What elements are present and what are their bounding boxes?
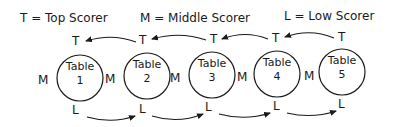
table-5: T Table 5 M L: [304, 30, 365, 111]
table-1-number: 1: [77, 74, 84, 87]
arrow-top-2-to-1: [86, 37, 136, 42]
tournament-rotation-diagram: T = Top Scorer M = Middle Scorer L = Low…: [0, 0, 397, 127]
table-5-middle-scorer: M: [304, 69, 314, 83]
table-4-low-scorer: L: [273, 99, 280, 113]
arrow-low-3-to-4: [219, 113, 270, 117]
table-1-top-scorer: T: [71, 34, 80, 48]
table-2-number: 2: [144, 72, 151, 85]
table-2-low-scorer: L: [139, 102, 146, 116]
table-5-number: 5: [339, 68, 346, 81]
table-1-middle-scorer: M: [38, 73, 48, 87]
table-1: T Table 1 M L: [38, 34, 103, 117]
table-2-top-scorer: T: [138, 33, 147, 47]
table-5-top-scorer: T: [337, 30, 346, 44]
legend-middle-scorer: M = Middle Scorer: [140, 11, 250, 25]
arrow-top-5-to-4: [285, 33, 334, 38]
legend-top-scorer: T = Top Scorer: [19, 11, 108, 25]
arrow-low-1-to-2: [87, 116, 135, 120]
table-5-label: Table: [327, 54, 357, 67]
table-3-low-scorer: L: [205, 100, 212, 114]
table-1-low-scorer: L: [72, 103, 79, 117]
arrow-top-4-to-3: [222, 35, 268, 40]
legend: T = Top Scorer M = Middle Scorer L = Low…: [19, 9, 374, 25]
table-3-number: 3: [209, 71, 216, 84]
arrow-low-2-to-3: [152, 114, 203, 120]
table-5-low-scorer: L: [338, 97, 345, 111]
table-4-number: 4: [274, 70, 281, 83]
table-2-middle-scorer: M: [105, 72, 115, 86]
table-2: T Table 2 M L: [105, 33, 170, 116]
arrow-low-4-to-5: [287, 111, 336, 116]
table-1-label: Table: [65, 60, 95, 73]
table-4-top-scorer: T: [271, 31, 280, 45]
table-4: T Table 4 M L: [237, 31, 300, 113]
table-4-label: Table: [262, 56, 292, 69]
arrow-top-3-to-2: [152, 35, 206, 40]
table-3-label: Table: [197, 57, 227, 70]
table-2-label: Table: [132, 58, 162, 71]
table-3: T Table 3 M L: [170, 32, 235, 114]
legend-low-scorer: L = Low Scorer: [284, 9, 374, 23]
table-4-middle-scorer: M: [237, 70, 247, 84]
table-3-top-scorer: T: [209, 32, 218, 46]
table-3-middle-scorer: M: [170, 71, 180, 85]
